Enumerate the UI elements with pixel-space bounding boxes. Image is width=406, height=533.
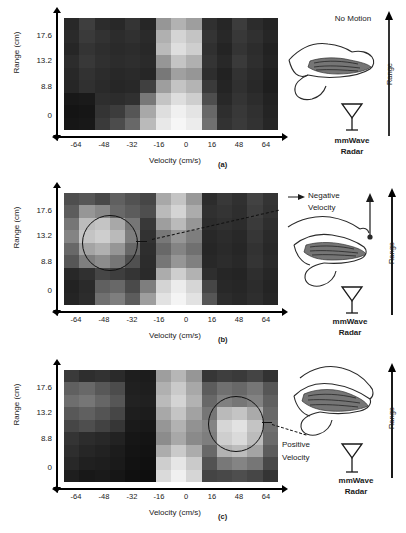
- heatmap-cell: [125, 445, 140, 457]
- heatmap-cell: [202, 55, 217, 67]
- heatmap-cell: [171, 445, 186, 457]
- heatmap-cell: [186, 382, 201, 394]
- heatmap-cell: [263, 445, 278, 457]
- heatmap-cell: [79, 193, 94, 205]
- heatmap-cell: [263, 43, 278, 55]
- heatmap-cell: [125, 93, 140, 105]
- heatmap-cell: [156, 193, 171, 205]
- heatmap-cell: [156, 55, 171, 67]
- heatmap-cell: [217, 470, 232, 482]
- heatmap-cell: [202, 30, 217, 42]
- heatmap-cell: [79, 293, 94, 305]
- heatmap-cell: [79, 80, 94, 92]
- heatmap-cell: [140, 243, 155, 255]
- y-axis-line-a: [56, 12, 58, 136]
- heatmap-cell: [171, 43, 186, 55]
- heatmap-cell: [140, 445, 155, 457]
- y-tick-labels-b: 17.6 13.2 8.8 0: [22, 175, 52, 350]
- heatmap-cell: [156, 255, 171, 267]
- heatmap-cell: [79, 18, 94, 30]
- heatmap-cell: [140, 43, 155, 55]
- range-doppler-heatmap-a: [64, 18, 278, 130]
- heatmap-cell: [232, 293, 247, 305]
- heatmap-cell: [263, 118, 278, 130]
- heatmap-cell: [79, 268, 94, 280]
- y-tick-3: 0: [48, 287, 52, 295]
- radar-label-line1-c: mmWave: [312, 476, 400, 486]
- heatmap-cell: [79, 420, 94, 432]
- x-tick-4: 0: [184, 141, 188, 149]
- heatmap-cell: [95, 30, 110, 42]
- heatmap-cell: [140, 18, 155, 30]
- heatmap-cell: [186, 268, 201, 280]
- heatmap-cell: [64, 230, 79, 242]
- heatmap-cell: [156, 470, 171, 482]
- heatmap-cell: [95, 395, 110, 407]
- heatmap-cell: [232, 30, 247, 42]
- x-tick-6: 48: [235, 141, 243, 149]
- heatmap-cell: [171, 457, 186, 469]
- heatmap-cell: [125, 118, 140, 130]
- heatmap-cell: [110, 30, 125, 42]
- x-tick-1: -48: [99, 141, 110, 149]
- heatmap-cell: [263, 280, 278, 292]
- heatmap-cell: [217, 382, 232, 394]
- heatmap-cell: [64, 218, 79, 230]
- heatmap-cell: [217, 255, 232, 267]
- heatmap-cell: [232, 105, 247, 117]
- heatmap-cell: [202, 382, 217, 394]
- heatmap-cell: [263, 30, 278, 42]
- heatmap-cell: [247, 193, 262, 205]
- heatmap-cell: [140, 457, 155, 469]
- heatmap-cell: [186, 55, 201, 67]
- figure-panel-c: 17.6 13.2 8.8 0 Range (cm) -64 -48 -32 -…: [0, 352, 406, 527]
- heatmap-cell: [140, 80, 155, 92]
- heatmap-cell: [79, 205, 94, 217]
- heatmap-cell: [140, 268, 155, 280]
- heatmap-cell: [247, 382, 262, 394]
- heatmap-cell: [79, 370, 94, 382]
- heatmap-cell: [64, 268, 79, 280]
- panel-label-c: (c): [218, 512, 227, 521]
- x-axis-line-c: [58, 488, 282, 490]
- heatmap-cell: [202, 457, 217, 469]
- heatmap-cell: [186, 255, 201, 267]
- heatmap-cell: [171, 293, 186, 305]
- heatmap-cell: [186, 205, 201, 217]
- heatmap-cell: [263, 382, 278, 394]
- heatmap-cell: [140, 255, 155, 267]
- heatmap-cell: [217, 268, 232, 280]
- figure-panel-a: 17.6 13.2 8.8 0 Range (cm) -64 -48 -32 -…: [0, 0, 406, 175]
- heatmap-cell: [171, 18, 186, 30]
- heatmap-cell: [217, 55, 232, 67]
- heatmap-cell: [202, 105, 217, 117]
- heatmap-cell: [125, 193, 140, 205]
- heatmap-cell: [247, 93, 262, 105]
- heatmap-cell: [171, 68, 186, 80]
- x-tick-3: -16: [154, 316, 165, 324]
- heatmap-cell: [186, 43, 201, 55]
- heatmap-cell: [79, 280, 94, 292]
- heatmap-cell: [110, 382, 125, 394]
- heatmap-cell: [79, 93, 94, 105]
- heatmap-cell: [125, 205, 140, 217]
- antenna-icon: [342, 287, 362, 313]
- heatmap-cell: [247, 230, 262, 242]
- heatmap-cell: [247, 457, 262, 469]
- heatmap-cell: [263, 218, 278, 230]
- heatmap-cell: [156, 80, 171, 92]
- heatmap-cell: [156, 370, 171, 382]
- heatmap-cell: [186, 293, 201, 305]
- heatmap-cell: [140, 370, 155, 382]
- heatmap-cell: [186, 68, 201, 80]
- radar-label-line1-b: mmWave: [306, 317, 394, 327]
- heatmap-cell: [95, 432, 110, 444]
- heatmap-cell: [171, 420, 186, 432]
- heatmap-cell: [156, 218, 171, 230]
- y-axis-title-b: Range (cm): [12, 198, 21, 258]
- heatmap-cell: [110, 445, 125, 457]
- heatmap-cell: [171, 280, 186, 292]
- heatmap-cell: [156, 395, 171, 407]
- heatmap-cell: [202, 470, 217, 482]
- x-tick-7: 64: [262, 493, 270, 501]
